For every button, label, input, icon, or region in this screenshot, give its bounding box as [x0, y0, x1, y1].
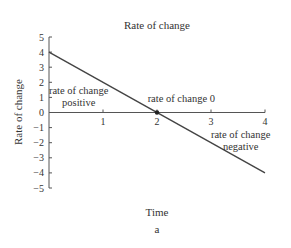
figure-caption: a — [155, 223, 160, 235]
x-axis-label: Time — [146, 206, 169, 218]
y-tick-label: 4 — [39, 47, 44, 58]
y-axis-label: Rate of change — [12, 79, 24, 145]
x-tick-label: 3 — [209, 116, 214, 127]
annotations: rate of changepositiverate of change 0ra… — [49, 85, 271, 152]
x-tick-label: 1 — [101, 116, 106, 127]
y-tick-label: −4 — [33, 167, 44, 178]
y-tick-label: 3 — [39, 62, 44, 73]
annotation-label: rate of changenegative — [211, 129, 271, 152]
y-tick-label: −1 — [33, 122, 44, 133]
y-tick-label: 5 — [39, 32, 44, 43]
y-tick-label: 2 — [39, 77, 44, 88]
y-tick-label: 1 — [39, 92, 44, 103]
rate-of-change-chart: Rate of change Rate of change 543210−1−2… — [0, 0, 291, 248]
annotation-label: rate of change 0 — [148, 93, 215, 104]
x-tick-label: 4 — [263, 116, 268, 127]
chart-title: Rate of change — [124, 19, 190, 31]
annotation-label: rate of changepositive — [49, 85, 109, 108]
x-tick-label: 2 — [155, 116, 160, 127]
y-tick-label: −5 — [33, 183, 44, 194]
y-tick-label: −2 — [33, 137, 44, 148]
zero-crossing-marker — [155, 110, 159, 114]
y-tick-label: −3 — [33, 152, 44, 163]
y-tick-label: 0 — [39, 107, 44, 118]
